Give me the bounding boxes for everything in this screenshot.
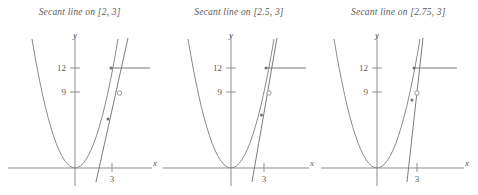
plot-area-2: 12 9 3 x y <box>159 0 318 195</box>
secant-line-2 <box>252 38 277 182</box>
level-endpoint-dot-1 <box>109 67 112 70</box>
plot-area-1: 12 9 3 x y <box>0 0 159 195</box>
x-tick-label-3-3: 3 <box>414 174 419 184</box>
x-axis-label-2: x <box>309 158 314 168</box>
tangent-point-dot-2 <box>260 113 263 116</box>
plot-area-3: 12 9 3 x y <box>319 0 478 195</box>
open-circle-marker-1 <box>117 91 121 95</box>
secant-line-1 <box>96 38 128 182</box>
y-tick-label-12-2: 12 <box>213 64 222 74</box>
y-axis-label-1: y <box>72 30 77 40</box>
y-tick-label-12-3: 12 <box>359 64 368 74</box>
x-axis-label-1: x <box>152 158 157 168</box>
tangent-point-dot-1 <box>106 117 109 120</box>
x-axis-label-3: x <box>464 158 469 168</box>
level-endpoint-dot-2 <box>265 67 268 70</box>
y-tick-label-9-2: 9 <box>218 88 223 98</box>
figure-panel-1: Secant line on [2, 3] 12 9 3 x y <box>0 0 159 195</box>
tangent-point-dot-3 <box>410 98 413 101</box>
figure-panel-3: Secant line on [2.75, 3] 12 9 3 x y <box>319 0 478 195</box>
secant-line-figure-row: Secant line on [2, 3] 12 9 3 x y Secant … <box>0 0 478 195</box>
x-tick-label-3-1: 3 <box>110 174 115 184</box>
y-tick-label-12-1: 12 <box>57 64 66 74</box>
secant-line-3 <box>407 38 423 182</box>
y-axis-label-2: y <box>228 30 233 40</box>
x-tick-label-3-2: 3 <box>262 174 267 184</box>
y-axis-label-3: y <box>374 30 379 40</box>
open-circle-marker-2 <box>267 91 271 95</box>
y-tick-label-9-1: 9 <box>61 88 66 98</box>
level-endpoint-dot-3 <box>412 67 415 70</box>
y-tick-label-9-3: 9 <box>363 88 368 98</box>
open-circle-marker-3 <box>414 91 418 95</box>
figure-panel-2: Secant line on [2.5, 3] 12 9 3 x y <box>159 0 318 195</box>
